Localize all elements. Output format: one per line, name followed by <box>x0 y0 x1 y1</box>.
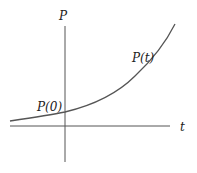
growth-diagram: P t P(t) P(0) <box>0 0 197 173</box>
intercept-label: P(0) <box>36 100 62 114</box>
p-axis-label: P <box>58 9 68 23</box>
curve-label: P(t) <box>131 51 155 65</box>
exponential-curve <box>10 24 175 121</box>
t-axis-label: t <box>180 120 185 134</box>
